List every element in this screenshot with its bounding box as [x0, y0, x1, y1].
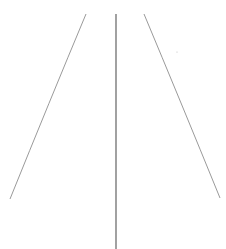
line-drawing	[0, 0, 226, 249]
right-line	[144, 14, 220, 198]
small-dot	[176, 51, 177, 52]
diagram-canvas	[0, 0, 226, 249]
left-line	[10, 14, 86, 199]
